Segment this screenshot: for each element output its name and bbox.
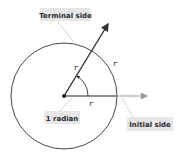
angle-label: 1 radian (46, 115, 79, 123)
initial-leader-line (122, 98, 133, 117)
radian-diagram: r r r Terminal side 1 radian Initial sid… (0, 0, 186, 158)
center-point (62, 94, 66, 98)
angle-arc-icon (77, 76, 88, 96)
angle-leader-line (60, 98, 72, 111)
initial-side-label: Initial side (129, 121, 171, 129)
terminal-side-label: Terminal side (39, 12, 92, 20)
radius-label-arc: r (113, 59, 118, 68)
terminal-leader-line (58, 22, 75, 44)
radius-label-terminal: r (74, 63, 79, 72)
radius-label-initial: r (89, 99, 94, 108)
